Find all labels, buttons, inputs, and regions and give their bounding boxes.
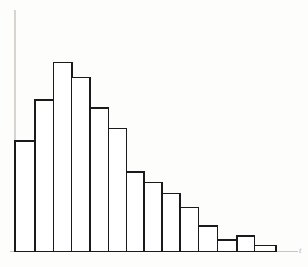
histogram-bar	[90, 108, 108, 252]
histogram-bar	[198, 226, 217, 252]
histogram-bar	[254, 246, 276, 252]
histogram-bars	[15, 63, 276, 252]
histogram-bar	[53, 63, 71, 252]
histogram-bar	[72, 78, 90, 252]
histogram-bar	[108, 129, 126, 252]
histogram-bar	[144, 183, 162, 252]
histogram-figure: t	[0, 0, 308, 267]
histogram-bar	[15, 141, 35, 252]
x-axis-label: t	[299, 245, 302, 255]
histogram-bar	[35, 100, 53, 252]
histogram-bar	[217, 240, 236, 252]
histogram-plot-area	[0, 0, 308, 267]
histogram-bar	[180, 208, 198, 252]
histogram-bar	[126, 172, 144, 252]
histogram-bar	[162, 194, 180, 252]
histogram-bar	[237, 236, 255, 252]
